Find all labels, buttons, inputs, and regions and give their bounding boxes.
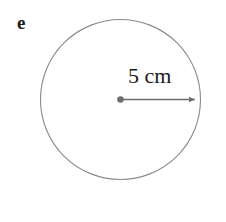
figure-canvas: e 5 cm xyxy=(0,0,226,222)
radius-measurement-label: 5 cm xyxy=(128,64,171,88)
circle-radius-diagram xyxy=(0,0,226,222)
center-point-dot xyxy=(117,96,124,103)
